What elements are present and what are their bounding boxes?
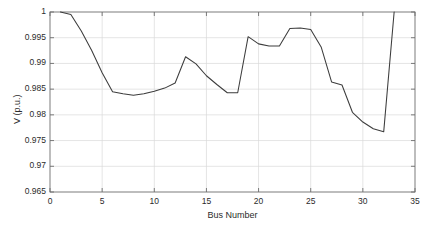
x-tick-label: 35: [395, 196, 432, 206]
x-tick-label: 15: [186, 196, 226, 206]
x-tick-label: 0: [30, 196, 70, 206]
figure-voltage-profile: 0.9650.970.9750.980.9850.990.9951 051015…: [0, 0, 432, 232]
y-axis-label: V (p.u.): [12, 94, 22, 124]
plot-frame: [50, 12, 415, 192]
x-tick-label: 5: [82, 196, 122, 206]
x-tick-label: 25: [291, 196, 331, 206]
gridlines-group: [50, 12, 415, 192]
voltage-profile-line: [60, 12, 394, 132]
x-tick-label: 20: [239, 196, 279, 206]
y-tick-label: 0.99: [29, 57, 46, 67]
x-tick-label: 30: [343, 196, 383, 206]
tickmarks-group: [50, 12, 415, 192]
y-tick-label: 0.97: [29, 160, 46, 170]
y-tick-label: 0.965: [25, 186, 46, 196]
y-tick-label: 0.985: [25, 83, 46, 93]
y-tick-label: 1: [41, 6, 46, 16]
y-tick-label: 0.975: [25, 135, 46, 145]
y-tick-label: 0.995: [25, 32, 46, 42]
x-axis-label: Bus Number: [10, 210, 432, 220]
x-tick-label: 10: [134, 196, 174, 206]
y-tick-label: 0.98: [29, 109, 46, 119]
